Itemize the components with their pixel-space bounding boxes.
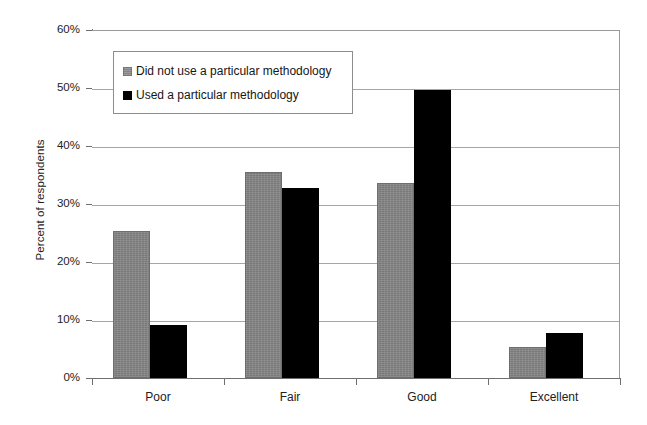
x-tick-label-fair: Fair	[220, 390, 360, 404]
gridline	[92, 147, 619, 148]
x-tick-label-excellent: Excellent	[484, 390, 624, 404]
bar-good-series-0	[377, 183, 414, 378]
bar-excellent-series-1	[546, 333, 583, 378]
y-tick-label: 30%	[20, 198, 80, 210]
gridline	[92, 321, 619, 322]
chart-legend: Did not use a particular methodology Use…	[113, 51, 353, 114]
bar-poor-series-0	[113, 231, 150, 378]
x-tick-mark	[620, 378, 621, 385]
legend-item: Used a particular methodology	[123, 83, 343, 107]
black-square-icon	[123, 91, 132, 100]
y-tick-label: 0%	[20, 372, 80, 384]
legend-item: Did not use a particular methodology	[123, 59, 343, 83]
x-tick-mark	[92, 378, 93, 385]
legend-item-label: Used a particular methodology	[136, 89, 299, 101]
gridline	[92, 205, 619, 206]
gridline	[92, 263, 619, 264]
y-tick-label: 40%	[20, 140, 80, 152]
x-tick-mark	[224, 378, 225, 385]
gray-square-icon	[123, 67, 132, 76]
legend-item-label: Did not use a particular methodology	[136, 65, 331, 77]
bar-good-series-1	[414, 90, 451, 378]
y-tick-label: 10%	[20, 314, 80, 326]
y-tick-label: 60%	[20, 24, 80, 36]
x-tick-label-poor: Poor	[88, 390, 228, 404]
bar-fair-series-0	[245, 172, 282, 378]
bar-poor-series-1	[150, 325, 187, 378]
y-tick-label: 20%	[20, 256, 80, 268]
x-tick-mark	[488, 378, 489, 385]
bar-chart: Percent of respondents 0%10%20%30%40%50%…	[0, 0, 647, 425]
bar-fair-series-1	[282, 188, 319, 378]
y-tick-label: 50%	[20, 82, 80, 94]
x-tick-label-good: Good	[352, 390, 492, 404]
bar-excellent-series-0	[509, 347, 546, 378]
x-tick-mark	[356, 378, 357, 385]
